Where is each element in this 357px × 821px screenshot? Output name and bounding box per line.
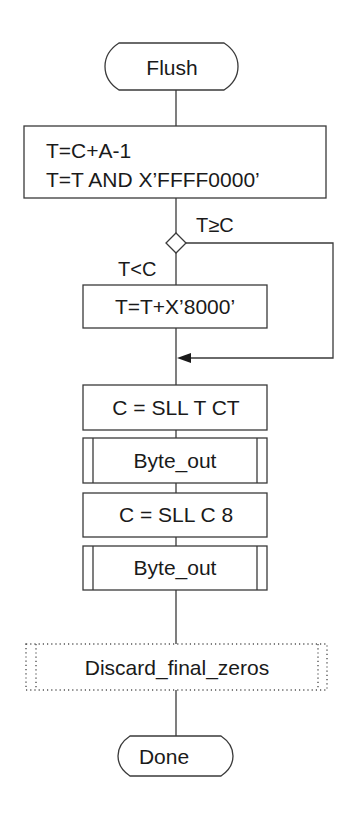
shift-ct-process-box: C = SLL T CT bbox=[83, 385, 267, 430]
start-label: Flush bbox=[146, 56, 197, 79]
init-line-1: T=C+A-1 bbox=[46, 139, 131, 162]
discard-final-zeros-box: Discard_final_zeros bbox=[26, 644, 327, 690]
byte-out-1-label: Byte_out bbox=[134, 449, 217, 473]
shift-8-label: C = SLL C 8 bbox=[119, 503, 233, 526]
discard-label: Discard_final_zeros bbox=[85, 656, 269, 680]
byte-out-box-1: Byte_out bbox=[83, 438, 267, 483]
shift-8-process-box: C = SLL C 8 bbox=[83, 493, 267, 537]
branch-label-t-ge-c: T≥C bbox=[196, 214, 234, 236]
start-terminator: Flush bbox=[105, 43, 238, 90]
byte-out-box-2: Byte_out bbox=[83, 546, 267, 590]
branch-label-t-lt-c: T<C bbox=[118, 258, 156, 280]
byte-out-2-label: Byte_out bbox=[134, 556, 217, 580]
end-label: Done bbox=[139, 745, 189, 768]
merge-arrowhead-icon bbox=[177, 353, 191, 363]
init-process-box: T=C+A-1 T=T AND X’FFFF0000’ bbox=[24, 126, 326, 198]
diamond-shape bbox=[166, 233, 186, 253]
shift-ct-label: C = SLL T CT bbox=[112, 396, 240, 419]
flowchart-diagram: Flush T=C+A-1 T=T AND X’FFFF0000’ T≥C T<… bbox=[0, 0, 357, 821]
add-process-box: T=T+X’8000’ bbox=[83, 285, 267, 328]
add-process-label: T=T+X’8000’ bbox=[115, 295, 235, 318]
init-line-2: T=T AND X’FFFF0000’ bbox=[46, 168, 260, 191]
end-terminator: Done bbox=[118, 736, 233, 776]
